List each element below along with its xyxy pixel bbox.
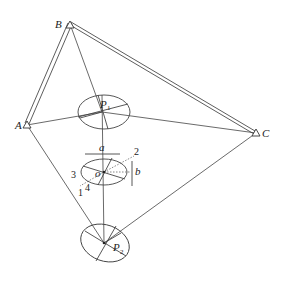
label-o: o [95,167,101,179]
station-markers [23,21,260,136]
label-c-station: C [262,127,270,139]
label-2: 2 [134,146,139,157]
connecting-lines [27,24,256,243]
point-o [103,171,106,174]
label-1: 1 [78,187,83,198]
point-p2 [103,242,106,245]
label-b-station: B [55,18,62,30]
label-p1: P [99,98,107,110]
label-a: a [99,141,105,153]
double-line-b-c [70,22,255,134]
label-p2-subscript: 2 [120,248,124,256]
label-b: b [135,165,141,177]
label-a-station: A [14,119,22,131]
double-line-a-b [25,23,72,124]
geometry-diagram: P 1 o a b 2 3 4 1 P 2 B A C [0,0,285,285]
label-4: 4 [85,182,90,193]
label-p1-subscript: 1 [107,104,111,112]
label-p2: P [112,241,120,253]
label-3: 3 [71,169,76,180]
